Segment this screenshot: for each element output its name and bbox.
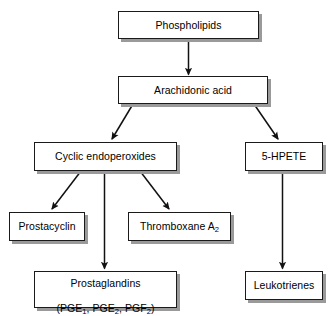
arrow-cyclic-endoperoxides-to-prostacyclin <box>52 171 81 209</box>
node-5-hpete-label: 5-HPETE <box>262 150 307 163</box>
node-cyclic-endoperoxides[interactable]: Cyclic endoperoxides <box>34 142 177 171</box>
prostaglandin-subscript: 1 <box>82 307 86 316</box>
prostaglandin-subscript: 2 <box>115 307 119 316</box>
node-thromboxane-a2-label-main: Thromboxane A <box>140 220 215 232</box>
prostaglandin-subscript: 2 <box>147 307 151 316</box>
arrow-cyclic-endoperoxides-to-thromboxane-a2 <box>140 171 169 209</box>
arrow-arachidonic-acid-to-5-hpete <box>254 104 278 139</box>
node-prostacyclin-label: Prostacyclin <box>18 220 75 233</box>
node-arachidonic-acid-label: Arachidonic acid <box>154 84 232 97</box>
node-arachidonic-acid[interactable]: Arachidonic acid <box>118 76 268 104</box>
node-phospholipids-label: Phospholipids <box>155 19 221 32</box>
node-prostaglandins-label: Prostaglandins (PGE1, PGE2, PGF2) <box>56 264 154 315</box>
node-prostaglandins[interactable]: Prostaglandins (PGE1, PGE2, PGF2) <box>34 271 177 308</box>
node-5-hpete[interactable]: 5-HPETE <box>245 142 323 171</box>
node-thromboxane-a2-label: Thromboxane A2 <box>140 220 219 233</box>
node-phospholipids[interactable]: Phospholipids <box>118 11 259 39</box>
node-thromboxane-a2[interactable]: Thromboxane A2 <box>128 212 231 241</box>
node-prostaglandins-line2: (PGE1, PGE2, PGF2) <box>56 302 154 314</box>
node-prostaglandins-line1: Prostaglandins <box>70 277 140 289</box>
pathway-diagram: Phospholipids Arachidonic acid Cyclic en… <box>0 0 333 316</box>
node-leukotrienes[interactable]: Leukotrienes <box>245 271 323 300</box>
node-thromboxane-a2-label-subscript: 2 <box>215 225 219 234</box>
node-leukotrienes-label: Leukotrienes <box>254 279 315 292</box>
node-cyclic-endoperoxides-label: Cyclic endoperoxides <box>55 150 156 163</box>
node-prostacyclin[interactable]: Prostacyclin <box>9 212 85 241</box>
arrow-arachidonic-acid-to-cyclic-endoperoxides <box>112 104 133 139</box>
